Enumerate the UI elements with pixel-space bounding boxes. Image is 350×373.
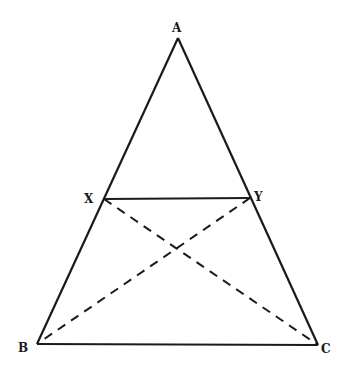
side-bc [37,344,318,345]
label-y: Y [253,190,263,204]
label-x: X [84,192,94,206]
label-b: B [18,341,28,355]
label-a: A [171,21,182,35]
side-ab [37,38,178,344]
triangle-diagram: A X Y B C [0,0,350,373]
label-c: C [321,342,331,356]
segment-xy [104,198,250,199]
dashed-segment-yb [37,198,250,344]
side-ac [178,38,318,345]
